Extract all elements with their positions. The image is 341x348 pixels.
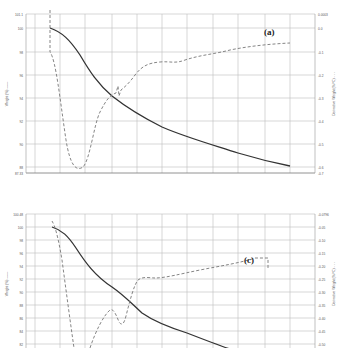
chart-a-svg: 101.1 100 98 96 94 92 90 88 87.33 0.0003…	[0, 0, 341, 180]
chart-c-left-ticks: 100.48 100 98 96 94 92 90 88 86 84 82	[13, 213, 23, 347]
chart-a-ylabel-right: Derivative Weight (%/°C) - - -	[332, 72, 336, 116]
tga-chart-a: 101.1 100 98 96 94 92 90 88 87.33 0.0003…	[0, 0, 341, 180]
svg-text:98: 98	[19, 239, 23, 243]
chart-c-right-ticks: -0.0796 -0.05 -0.10 -0.15 -0.20 -0.25 -0…	[318, 213, 329, 347]
svg-text:-0.0796: -0.0796	[318, 213, 329, 217]
svg-text:90: 90	[19, 143, 23, 147]
svg-text:86: 86	[19, 317, 23, 321]
chart-c-ylabel-left: Weight (%) ——	[5, 271, 9, 296]
svg-text:87.33: 87.33	[15, 172, 23, 176]
svg-text:-0.7: -0.7	[318, 172, 324, 176]
chart-a-panel-label: (a)	[264, 27, 275, 37]
svg-text:100.48: 100.48	[13, 213, 23, 217]
tga-chart-c: 100.48 100 98 96 94 92 90 88 86 84 82 -0…	[0, 200, 341, 348]
svg-text:-0.30: -0.30	[318, 291, 325, 295]
svg-text:0.0: 0.0	[318, 27, 323, 31]
svg-text:-0.50: -0.50	[318, 343, 325, 347]
chart-c-panel-label: (c)	[244, 255, 254, 265]
svg-text:98: 98	[19, 51, 23, 55]
svg-text:82: 82	[19, 343, 23, 347]
svg-text:-0.4: -0.4	[318, 120, 324, 124]
svg-text:-0.35: -0.35	[318, 304, 325, 308]
svg-text:88: 88	[19, 304, 23, 308]
svg-text:-0.45: -0.45	[318, 330, 325, 334]
svg-text:92: 92	[19, 120, 23, 124]
svg-text:90: 90	[19, 291, 23, 295]
svg-text:-0.3: -0.3	[318, 97, 324, 101]
svg-text:-0.6: -0.6	[318, 166, 324, 170]
svg-text:0.0003: 0.0003	[318, 13, 328, 17]
chart-a-weight-curve	[50, 28, 290, 166]
svg-text:-0.10: -0.10	[318, 239, 325, 243]
svg-text:94: 94	[19, 265, 23, 269]
svg-text:94: 94	[19, 97, 23, 101]
chart-c-ylabel-right: Derivative Weight (%/°C) - - -	[332, 262, 336, 306]
svg-text:-0.20: -0.20	[318, 265, 325, 269]
chart-a-grid	[26, 14, 315, 173]
chart-a-left-ticks: 101.1 100 98 96 94 92 90 88 87.33	[15, 13, 23, 176]
chart-c-svg: 100.48 100 98 96 94 92 90 88 86 84 82 -0…	[0, 200, 341, 348]
svg-text:96: 96	[19, 74, 23, 78]
svg-text:101.1: 101.1	[15, 13, 23, 17]
svg-text:-0.25: -0.25	[318, 278, 325, 282]
svg-text:-0.5: -0.5	[318, 143, 324, 147]
svg-text:-0.1: -0.1	[318, 51, 324, 55]
chart-c-weight-curve	[52, 227, 230, 348]
chart-a-derivative-curve	[50, 10, 290, 169]
svg-text:100: 100	[18, 27, 24, 31]
svg-text:-0.2: -0.2	[318, 74, 324, 78]
svg-text:96: 96	[19, 252, 23, 256]
svg-text:84: 84	[19, 330, 23, 334]
chart-a-right-ticks: 0.0003 0.0 -0.1 -0.2 -0.3 -0.4 -0.5 -0.6…	[318, 13, 328, 176]
chart-a-ylabel-left: Weight (%) ——	[5, 81, 9, 106]
svg-text:-0.05: -0.05	[318, 226, 325, 230]
svg-text:92: 92	[19, 278, 23, 282]
svg-text:100: 100	[18, 226, 24, 230]
svg-text:88: 88	[19, 166, 23, 170]
svg-text:-0.40: -0.40	[318, 317, 325, 321]
svg-text:-0.15: -0.15	[318, 252, 325, 256]
